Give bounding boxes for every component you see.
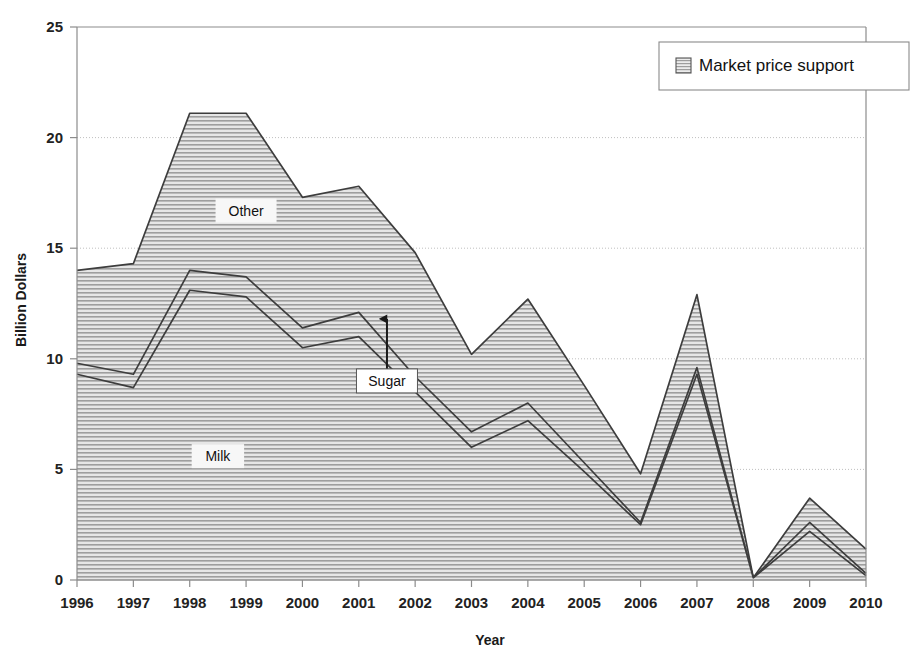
annotation-label: Other <box>229 203 264 219</box>
x-axis-tick-label: 2001 <box>342 594 375 611</box>
x-axis-tick-label: 2000 <box>286 594 319 611</box>
x-axis-tick-label: 2004 <box>511 594 545 611</box>
hatched-square-icon <box>676 58 691 73</box>
x-axis-tick-label: 2010 <box>849 594 882 611</box>
x-axis-tick-label: 2003 <box>455 594 488 611</box>
y-axis-tick-label: 20 <box>46 129 63 146</box>
x-axis-tick-label: 1999 <box>229 594 262 611</box>
y-axis-tick-label: 10 <box>46 350 63 367</box>
x-axis-tick-label: 2007 <box>680 594 713 611</box>
chart-legend[interactable]: Market price support <box>659 42 909 90</box>
y-axis-tick-label: 0 <box>55 571 63 588</box>
y-axis-tick-label: 25 <box>46 18 63 35</box>
chart-container: 0510152025 19961997199819992000200120022… <box>0 0 922 654</box>
x-axis-tick-label: 2005 <box>568 594 601 611</box>
annotation-label: Milk <box>205 448 231 464</box>
x-axis-title: Year <box>475 632 505 648</box>
x-axis-tick-label: 2009 <box>793 594 826 611</box>
x-axis-tick-label: 1996 <box>60 594 93 611</box>
x-axis-tick-label: 1998 <box>173 594 206 611</box>
legend-item-label: Market price support <box>699 56 854 75</box>
x-axis-tick-label: 1997 <box>117 594 150 611</box>
x-axis-tick-label: 2006 <box>624 594 657 611</box>
annotation-label: Sugar <box>368 373 406 389</box>
market-price-support-area-chart: 0510152025 19961997199819992000200120022… <box>0 0 922 654</box>
x-axis-tick-label: 2008 <box>737 594 770 611</box>
x-axis-tick-label: 2002 <box>398 594 431 611</box>
y-axis-title: Billion Dollars <box>13 253 29 347</box>
y-axis-tick-label: 5 <box>55 460 63 477</box>
y-axis-tick-label: 15 <box>46 239 63 256</box>
